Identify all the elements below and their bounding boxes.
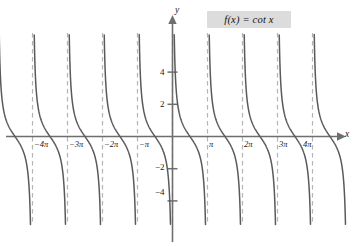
x-tick-label-minus-pi: −π (139, 139, 149, 149)
x-tick-label-pi: π (209, 139, 213, 149)
x-tick-label-4pi: 4π (303, 139, 312, 149)
y-axis-label: y (175, 5, 179, 15)
y-tick-label-minus-2: −2 (155, 162, 165, 172)
cot-branch-5 (209, 35, 240, 224)
cot-branch-0 (34, 35, 65, 224)
x-tick-label-minus-4pi: −4π (34, 139, 48, 149)
cot-branch-6 (244, 35, 275, 225)
y-tick-label-4: 4 (160, 67, 165, 77)
cotangent-plot (0, 0, 357, 247)
figure-canvas: f(x) = cot x x y 4 2 −2 −4 −4π −3π −2π −… (0, 0, 357, 247)
y-tick-label-2: 2 (160, 99, 165, 109)
axes (6, 15, 346, 242)
cot-branch-4 (174, 35, 205, 225)
x-tick-label-minus-3pi: −3π (69, 139, 83, 149)
cot-branch-2 (104, 35, 135, 224)
y-axis-arrowhead (168, 15, 176, 24)
cot-branch-1 (69, 35, 100, 225)
y-tick-label-minus-4: −4 (155, 187, 165, 197)
cot-branch-8 (314, 35, 345, 225)
function-label-text: f(x) = cot x (207, 12, 291, 27)
x-tick-label-minus-2pi: −2π (104, 139, 118, 149)
cot-branch-9 (0, 35, 30, 225)
x-axis-label: x (345, 129, 349, 139)
x-tick-label-3pi: 3π (279, 139, 288, 149)
x-tick-label-2pi: 2π (244, 139, 253, 149)
cot-branch-7 (279, 35, 310, 224)
